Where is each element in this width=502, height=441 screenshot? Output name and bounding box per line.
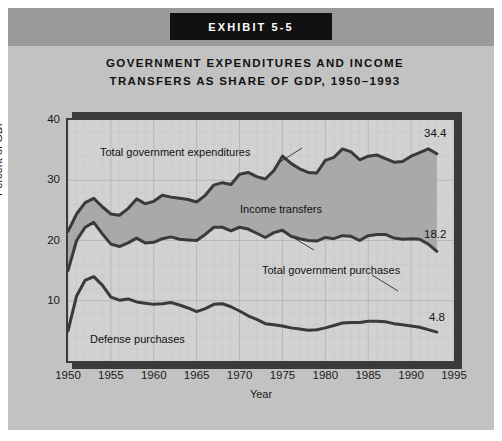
x-tick-1975: 1975 xyxy=(259,369,305,381)
exhibit-badge-label: EXHIBIT 5-5 xyxy=(208,21,293,33)
x-tick-1970: 1970 xyxy=(217,369,263,381)
annotation-total-government-purchases: Total government purchases xyxy=(262,264,400,276)
x-tick-1965: 1965 xyxy=(174,369,220,381)
y-tick-20: 20 xyxy=(34,234,60,246)
end-label-defense-purchases: 4.8 xyxy=(429,311,445,323)
x-tick-1950: 1950 xyxy=(45,369,91,381)
x-tick-1980: 1980 xyxy=(302,369,348,381)
annotation-defense-purchases: Defense purchases xyxy=(90,333,185,345)
x-tick-1985: 1985 xyxy=(345,369,391,381)
x-tick-1960: 1960 xyxy=(131,369,177,381)
chart-title-line-2: TRANSFERS AS SHARE OF GDP, 1950–1993 xyxy=(60,72,450,90)
exhibit-page: EXHIBIT 5-5 GOVERNMENT EXPENDITURES AND … xyxy=(0,0,502,441)
end-label-total-government-expenditures: 34.4 xyxy=(424,127,446,139)
y-axis-title: Percent of GDP xyxy=(0,119,4,196)
y-tick-30: 30 xyxy=(34,173,60,185)
x-tick-1955: 1955 xyxy=(88,369,134,381)
end-label-total-government-purchases: 18.2 xyxy=(424,228,446,240)
x-tick-1990: 1990 xyxy=(388,369,434,381)
chart-title: GOVERNMENT EXPENDITURES AND INCOME TRANS… xyxy=(60,54,450,90)
annotation-total-government-expenditures: Total government expenditures xyxy=(100,146,250,158)
chart-title-line-1: GOVERNMENT EXPENDITURES AND INCOME xyxy=(60,54,450,72)
annotation-income-transfers: Income transfers xyxy=(240,203,322,215)
exhibit-badge: EXHIBIT 5-5 xyxy=(170,13,332,40)
y-tick-10: 10 xyxy=(34,294,60,306)
x-axis-title: Year xyxy=(66,388,456,400)
x-tick-1995: 1995 xyxy=(431,369,477,381)
y-tick-40: 40 xyxy=(34,113,60,125)
